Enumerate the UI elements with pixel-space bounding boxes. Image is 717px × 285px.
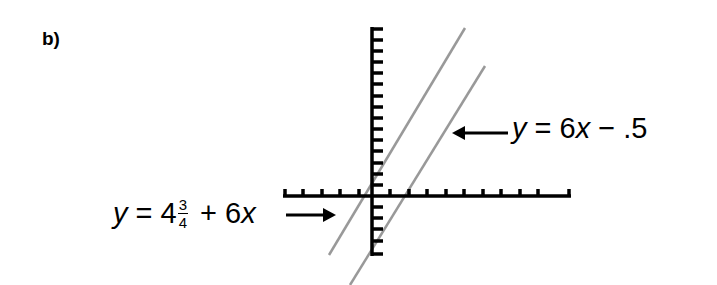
eq-coef: 6 xyxy=(225,197,241,229)
eq-equals: = xyxy=(136,197,153,229)
y-axis xyxy=(372,27,383,256)
line-upper xyxy=(329,28,465,255)
frac-numerator: 3 xyxy=(178,197,188,214)
eq-coef: 6 xyxy=(560,112,576,144)
equation-upper-line: y = 434 + 6x xyxy=(113,197,256,232)
left-arrow-icon xyxy=(452,126,508,140)
eq-lhs: y xyxy=(512,112,527,144)
eq-op: + xyxy=(200,197,217,229)
x-axis xyxy=(283,189,571,196)
equation-lower-line: y = 6x − .5 xyxy=(512,112,647,145)
eq-equals: = xyxy=(535,112,552,144)
eq-var: x xyxy=(241,197,256,229)
right-arrow-icon xyxy=(286,208,336,222)
eq-fraction: 34 xyxy=(178,197,188,230)
eq-whole: 4 xyxy=(161,197,177,229)
eq-lhs: y xyxy=(113,197,128,229)
eq-const: .5 xyxy=(623,112,647,144)
eq-op: − xyxy=(598,112,615,144)
frac-denominator: 4 xyxy=(178,214,188,230)
eq-var: x xyxy=(576,112,591,144)
